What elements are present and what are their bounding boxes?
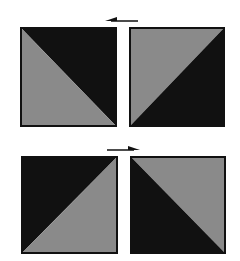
- arrow-left-icon: [105, 15, 139, 25]
- tile-row2-right: [130, 156, 226, 254]
- tile-row1-left: [20, 27, 117, 127]
- tile-row2-left: [21, 156, 118, 254]
- arrow-right-icon: [106, 144, 140, 154]
- tile-row1-right: [129, 27, 225, 127]
